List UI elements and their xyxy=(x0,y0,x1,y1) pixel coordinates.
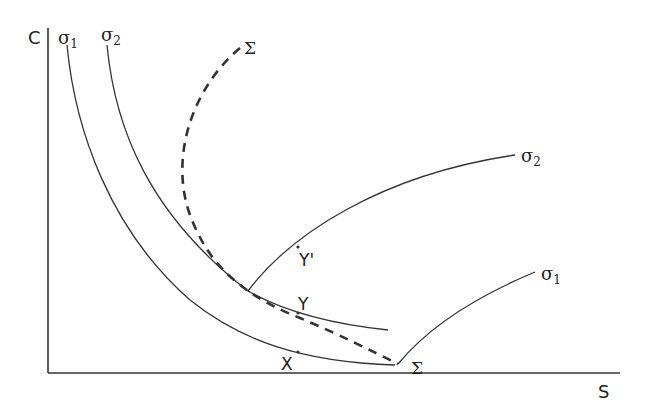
sigma1-label-left: σ1 xyxy=(58,27,78,51)
sigma2-label-left: σ2 xyxy=(101,24,121,48)
diagram-canvas: C S σ1 σ2 σ2 σ1 Σ Σ Y' Y X xyxy=(0,0,651,417)
sigma-label-bottom: Σ xyxy=(411,358,423,378)
sigma1-label-right: σ1 xyxy=(541,263,561,287)
sigma-label-top: Σ xyxy=(244,38,256,58)
sigma1-curve-right xyxy=(398,272,535,364)
point-x-label: X xyxy=(281,354,293,374)
y-axis-label: C xyxy=(28,27,41,48)
sigma2-label-right: σ2 xyxy=(521,145,541,169)
point-yprime-label: Y' xyxy=(298,250,314,270)
point-y-label: Y xyxy=(297,294,309,314)
sigma-dashed-curve xyxy=(182,48,398,364)
point-x xyxy=(296,350,299,353)
sigma2-curve-right xyxy=(248,155,515,291)
sigma2-curve-left xyxy=(107,45,388,330)
x-axis-label: S xyxy=(598,381,609,402)
point-yprime xyxy=(296,245,299,248)
sigma1-curve-left xyxy=(67,45,395,365)
